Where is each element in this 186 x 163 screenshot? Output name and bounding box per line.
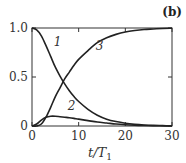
x-tick-label: 30: [164, 129, 179, 143]
y-tick-label: 0: [20, 119, 28, 133]
chart: 1.0 0.5 0 0 10 20 30 t/T1 (b) 123: [0, 0, 186, 163]
curve-label: 3: [96, 39, 104, 53]
y-tick-label: 1.0: [9, 21, 28, 35]
panel-label: (b): [162, 5, 182, 19]
curve-label: 2: [67, 99, 76, 113]
x-tick-label: 20: [118, 129, 133, 143]
y-tick-label: 0.5: [9, 70, 28, 84]
x-tick-label: 0: [28, 129, 36, 143]
x-tick-label: 10: [71, 129, 86, 143]
curve-label: 1: [54, 35, 62, 49]
x-axis-label: t/T1: [88, 145, 112, 162]
